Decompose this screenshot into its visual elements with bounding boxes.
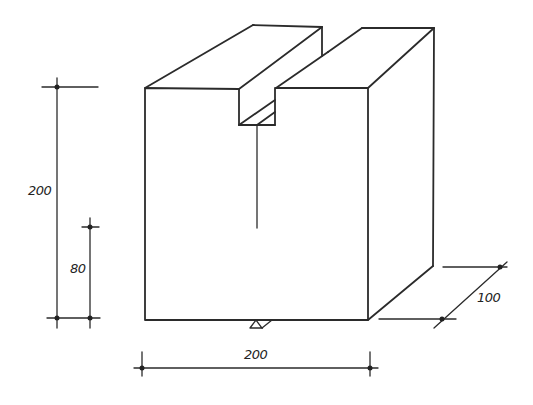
notch <box>239 88 275 125</box>
block-right-top <box>276 28 434 88</box>
label-width-200: 200 <box>244 347 267 362</box>
label-height-80: 80 <box>70 261 86 276</box>
dimension-height-200 <box>42 78 100 328</box>
block-left-top <box>145 25 322 89</box>
support-triangle-icon <box>250 320 272 328</box>
label-height-200: 200 <box>28 183 51 198</box>
block-right-side <box>368 28 434 320</box>
notched-block-drawing <box>0 0 533 405</box>
label-depth-100: 100 <box>477 290 500 305</box>
